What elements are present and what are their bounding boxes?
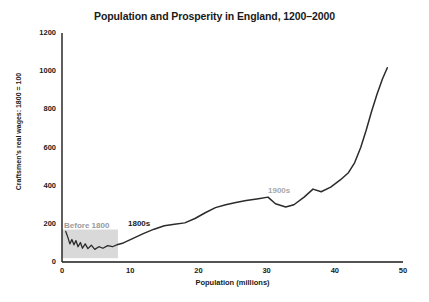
annotation-1900s: 1900s [268,186,290,195]
plot-area [0,0,429,302]
x-tick-label: 30 [255,266,279,275]
x-axis-title: Population (millions) [62,278,403,287]
series-line-1 [118,68,387,245]
x-tick-label: 10 [118,266,142,275]
x-tick-label: 40 [323,266,347,275]
x-tick-label: 0 [50,266,74,275]
annotation-1800s: 1800s [128,219,150,228]
x-tick-label: 50 [391,266,415,275]
y-axis-title: Craftsmen's real wages: 1800 = 100 [15,52,22,212]
y-tick-label: 800 [22,104,56,113]
y-tick-label: 200 [22,219,56,228]
y-tick-label: 0 [22,257,56,266]
y-tick-label: 600 [22,143,56,152]
chart-container: Population and Prosperity in England, 12… [0,0,429,302]
x-tick-label: 20 [186,266,210,275]
y-tick-label: 400 [22,181,56,190]
y-tick-label: 1000 [22,66,56,75]
annotation-before-1800: Before 1800 [64,221,109,230]
y-tick-label: 1200 [22,28,56,37]
